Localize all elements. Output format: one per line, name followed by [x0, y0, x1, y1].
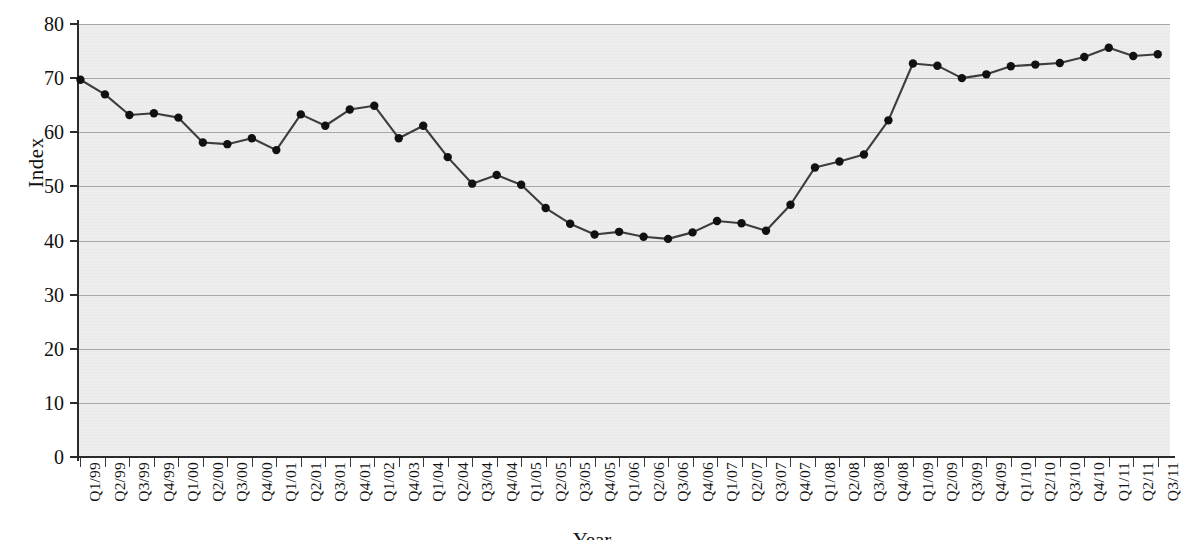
data-point-marker [737, 219, 745, 227]
data-point-marker [150, 109, 158, 117]
data-point-marker [811, 163, 819, 171]
data-point-marker [395, 134, 403, 142]
data-series-line [0, 0, 1184, 540]
data-point-marker [713, 217, 721, 225]
data-point-marker [248, 134, 256, 142]
data-point-marker [958, 74, 966, 82]
data-point-marker [933, 61, 941, 69]
data-point-marker [517, 181, 525, 189]
data-point-marker [639, 233, 647, 241]
data-point-marker [199, 138, 207, 146]
data-point-marker [590, 230, 598, 238]
x-axis-title: Year [0, 528, 1184, 540]
data-point-marker [1056, 59, 1064, 67]
data-point-marker [174, 113, 182, 121]
data-point-marker [1080, 53, 1088, 61]
data-point-marker [566, 220, 574, 228]
data-point-marker [468, 179, 476, 187]
data-point-marker [125, 111, 133, 119]
series-polyline [80, 48, 1157, 239]
data-point-marker [76, 76, 84, 84]
data-point-marker [101, 90, 109, 98]
data-point-marker [860, 150, 868, 158]
data-point-marker [272, 146, 280, 154]
data-point-marker [321, 122, 329, 130]
data-point-marker [835, 157, 843, 165]
data-point-marker [884, 116, 892, 124]
data-point-marker [1007, 62, 1015, 70]
data-point-marker [1129, 52, 1137, 60]
data-point-marker [1154, 50, 1162, 58]
chart-figure: Index 01020304050607080 Q1/99Q2/99Q3/99Q… [0, 0, 1184, 540]
data-point-marker [1105, 44, 1113, 52]
data-point-marker [346, 105, 354, 113]
data-point-marker [223, 140, 231, 148]
data-point-marker [909, 59, 917, 67]
data-point-marker [541, 204, 549, 212]
data-point-marker [492, 171, 500, 179]
data-point-marker [786, 201, 794, 209]
data-point-marker [444, 153, 452, 161]
data-point-marker [297, 110, 305, 118]
data-point-marker [419, 122, 427, 130]
data-point-marker [370, 102, 378, 110]
data-point-marker [688, 228, 696, 236]
data-point-marker [982, 70, 990, 78]
data-point-marker [762, 227, 770, 235]
data-point-marker [664, 235, 672, 243]
data-point-marker [1031, 60, 1039, 68]
data-point-marker [615, 228, 623, 236]
